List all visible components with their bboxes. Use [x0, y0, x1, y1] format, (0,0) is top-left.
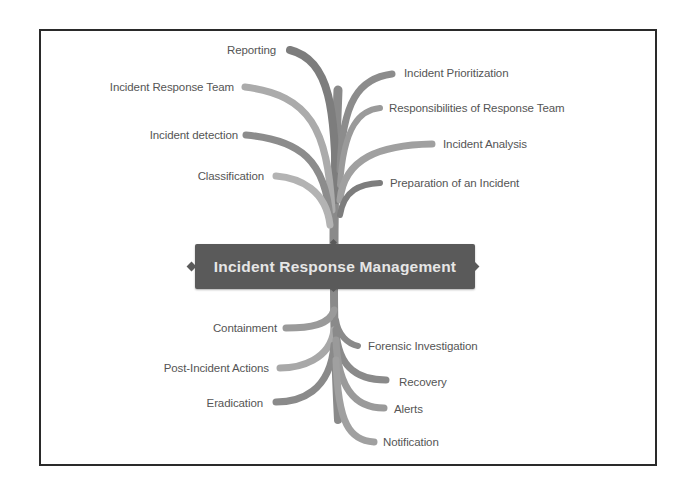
- node-notification[interactable]: Notification: [383, 435, 439, 449]
- node-incident-prioritization[interactable]: Incident Prioritization: [404, 66, 508, 80]
- node-classification[interactable]: Classification: [198, 169, 264, 183]
- branch-containment: [286, 310, 334, 328]
- node-forensic-investigation[interactable]: Forensic Investigation: [368, 339, 478, 353]
- central-topic-node[interactable]: Incident Response Management: [195, 244, 475, 289]
- central-topic-label: Incident Response Management: [214, 258, 456, 276]
- node-alerts[interactable]: Alerts: [394, 402, 423, 416]
- node-eradication[interactable]: Eradication: [207, 396, 263, 410]
- node-incident-detection[interactable]: Incident detection: [150, 128, 238, 142]
- branch-connectors: [0, 0, 688, 485]
- branch-post-incident-actions: [280, 330, 334, 368]
- node-containment[interactable]: Containment: [213, 321, 277, 335]
- node-preparation-of-an-incident[interactable]: Preparation of an Incident: [390, 176, 519, 190]
- node-post-incident-actions[interactable]: Post-Incident Actions: [164, 361, 269, 375]
- node-reporting[interactable]: Reporting: [227, 43, 276, 57]
- node-recovery[interactable]: Recovery: [399, 375, 447, 389]
- node-incident-response-team[interactable]: Incident Response Team: [110, 80, 234, 94]
- node-incident-analysis[interactable]: Incident Analysis: [443, 137, 527, 151]
- branch-preparation: [340, 183, 380, 215]
- node-responsibilities-of-response-team[interactable]: Responsibilities of Response Team: [389, 101, 564, 115]
